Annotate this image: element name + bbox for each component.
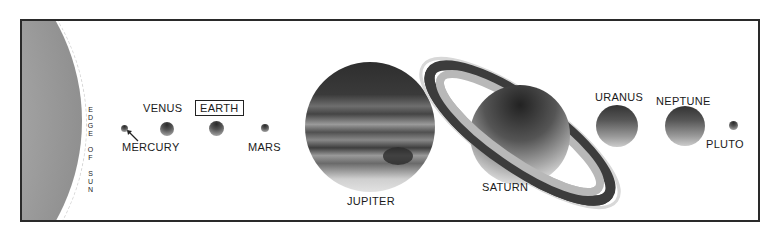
planet-neptune xyxy=(665,106,705,146)
label-saturn: SATURN xyxy=(482,181,528,193)
label-earth: EARTH xyxy=(195,100,244,116)
planet-mars xyxy=(261,124,269,132)
planet-earth xyxy=(209,121,224,136)
sun-corona xyxy=(20,19,87,222)
label-venus: VENUS xyxy=(143,102,182,114)
label-uranus: URANUS xyxy=(595,91,643,103)
planet-pluto xyxy=(729,121,738,130)
label-mercury: MERCURY xyxy=(122,141,180,153)
label-pluto: PLUTO xyxy=(706,138,744,150)
label-jupiter: JUPITER xyxy=(347,195,395,207)
planet-uranus xyxy=(596,105,638,147)
label-mars: MARS xyxy=(248,141,281,153)
sun-label: EDGE OF SUN xyxy=(87,106,94,194)
planet-venus xyxy=(160,122,174,136)
label-neptune: NEPTUNE xyxy=(656,95,711,107)
diagram-frame: EDGE OF SUN MERCURY VENUS EARTH MARS JUP… xyxy=(20,19,760,222)
